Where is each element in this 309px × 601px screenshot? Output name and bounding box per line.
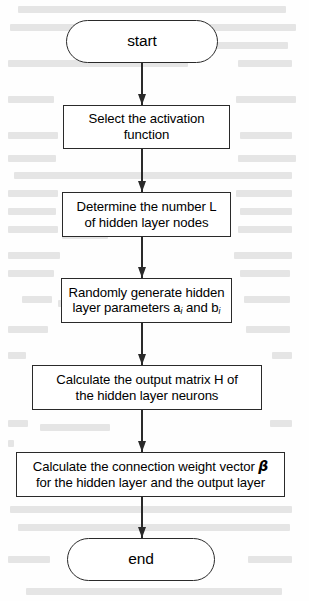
beta-symbol: β (258, 458, 268, 474)
weight-vector-line-1: Calculate the connection weight vector (33, 459, 259, 474)
flow-arrowhead-weight-to-end (138, 527, 146, 538)
flow-node-determine-hidden-nodes-label: Determine the number Lof hidden layer no… (72, 199, 220, 230)
random-params-line-1: Randomly generate hidden (69, 285, 225, 300)
output-matrix-line-1: Calculate the output matrix H of (56, 372, 238, 387)
flow-node-start[interactable]: start (66, 20, 218, 63)
flow-arrowhead-random-to-matrix (138, 354, 146, 365)
flow-node-calculate-weight-vector[interactable]: Calculate the connection weight vector β… (16, 452, 285, 497)
output-matrix-line-2: the hidden layer neurons (76, 388, 219, 403)
determine-nodes-line-2: of hidden layer nodes (84, 215, 208, 230)
flow-node-end[interactable]: end (67, 538, 215, 581)
flow-node-determine-hidden-nodes[interactable]: Determine the number Lof hidden layer no… (62, 192, 231, 237)
random-params-line-2a: layer parameters a (72, 300, 180, 315)
select-activation-line-2: function (124, 127, 169, 142)
random-params-line-2b: and b (183, 300, 219, 315)
flow-node-random-hidden-params-label: Randomly generate hiddenlayer parameters… (65, 285, 229, 316)
flow-node-select-activation[interactable]: Select the activationfunction (63, 105, 230, 149)
flow-node-select-activation-label: Select the activationfunction (85, 111, 209, 142)
flow-node-random-hidden-params[interactable]: Randomly generate hiddenlayer parameters… (61, 278, 232, 323)
weight-vector-line-2: for the hidden layer and the output laye… (36, 475, 265, 490)
determine-nodes-line-1: Determine the number L (76, 199, 216, 214)
flow-arrowhead-select-to-determine (138, 181, 146, 192)
flowchart-page: start Select the activationfunction Dete… (0, 0, 309, 601)
flow-arrowhead-start-to-select (138, 94, 146, 105)
flow-node-end-label: end (124, 550, 158, 568)
random-params-subscript-b: i (219, 306, 221, 316)
flow-node-calculate-output-matrix[interactable]: Calculate the output matrix H ofthe hidd… (32, 365, 262, 410)
flow-node-calculate-weight-vector-label: Calculate the connection weight vector β… (29, 458, 272, 490)
flowchart-diagram: start Select the activationfunction Dete… (0, 0, 309, 601)
flow-arrowhead-determine-to-random (138, 267, 146, 278)
flow-node-calculate-output-matrix-label: Calculate the output matrix H ofthe hidd… (52, 372, 242, 403)
flow-node-start-label: start (123, 32, 161, 50)
flow-arrowhead-matrix-to-weight (138, 441, 146, 452)
select-activation-line-1: Select the activation (89, 111, 205, 126)
